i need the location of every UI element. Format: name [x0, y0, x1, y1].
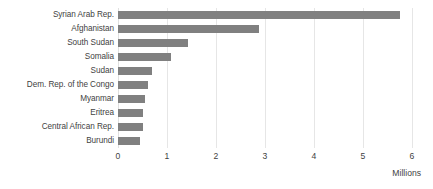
x-tick-label: 6 — [400, 150, 424, 162]
category-label: Sudan — [0, 66, 114, 76]
plot-area — [118, 8, 412, 148]
value-axis: 0123456 — [118, 150, 412, 164]
bar — [118, 81, 148, 89]
x-tick-label: 5 — [351, 150, 375, 162]
gridline-3 — [265, 8, 266, 148]
x-tick-label: 3 — [253, 150, 277, 162]
category-label: Burundi — [0, 136, 114, 146]
category-label: Eritrea — [0, 108, 114, 118]
bar — [118, 137, 140, 145]
axis-unit-caption: Millions — [392, 167, 421, 179]
bar-chart: Syrian Arab Rep.AfghanistanSouth SudanSo… — [0, 0, 433, 189]
category-label: Dem. Rep. of the Congo — [0, 80, 114, 90]
bar — [118, 11, 400, 19]
category-label: Afghanistan — [0, 24, 114, 34]
category-label: South Sudan — [0, 38, 114, 48]
bar — [118, 25, 259, 33]
category-label: Syrian Arab Rep. — [0, 10, 114, 20]
category-axis: Syrian Arab Rep.AfghanistanSouth SudanSo… — [0, 8, 114, 148]
bar — [118, 109, 143, 117]
bar — [118, 123, 143, 131]
x-tick-label: 0 — [106, 150, 130, 162]
category-label: Myanmar — [0, 94, 114, 104]
x-tick-label: 1 — [155, 150, 179, 162]
category-label: Central African Rep. — [0, 122, 114, 132]
x-tick-label: 2 — [204, 150, 228, 162]
bar — [118, 39, 188, 47]
gridline-6 — [412, 8, 413, 148]
gridline-4 — [314, 8, 315, 148]
bar — [118, 53, 171, 61]
bar — [118, 95, 145, 103]
category-label: Somalia — [0, 52, 114, 62]
x-tick-label: 4 — [302, 150, 326, 162]
bar — [118, 67, 152, 75]
gridline-5 — [363, 8, 364, 148]
